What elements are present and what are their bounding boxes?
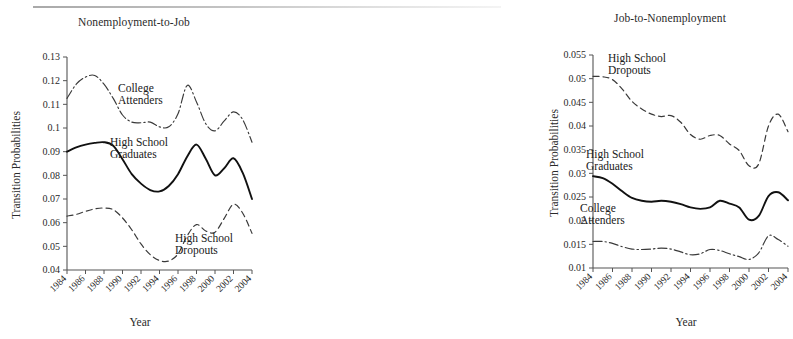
x-tick-label: 2000 [195,272,216,293]
x-tick-label: 1986 [593,270,614,291]
x-tick-label: 1984 [573,270,594,291]
x-tick-label: 1990 [103,272,124,293]
y-tick-label: 0.04 [569,120,587,131]
panel-job-to-nonemployment: Job-to-Nonemployment Transition Probabil… [536,0,793,339]
y-tick-label: 0.045 [564,97,587,108]
x-tick-label: 1990 [632,270,653,291]
y-tick-label: 0.13 [43,51,61,62]
y-tick-label: 0.08 [43,170,61,181]
x-axis-label-left: Year [100,316,180,328]
x-tick-label: 1998 [710,270,731,291]
annotation-high-school-dropouts-right: High School Dropouts [608,52,666,77]
chart-svg-right: 0.0550.050.0450.040.0350.030.0250.020.01… [536,0,793,312]
x-tick-label: 1996 [158,272,179,293]
x-tick-label: 1992 [121,272,142,293]
y-tick-label: 0.01 [569,262,587,273]
x-tick-label: 1996 [690,270,711,291]
x-tick-label: 1988 [84,272,105,293]
y-tick-label: 0.07 [43,193,61,204]
annotation-high-school-graduates-left: High School Graduates [110,136,168,161]
x-tick-label: 2004 [768,270,789,291]
x-tick-label: 1994 [140,272,161,293]
y-tick-label: 0.11 [43,99,60,110]
annotation-college-attenders-right: College Attenders [580,202,625,227]
plot-area-right: 0.0550.050.0450.040.0350.030.0250.020.01… [536,0,793,312]
y-tick-label: 0.04 [43,264,61,275]
x-tick-label: 1994 [671,270,692,291]
x-tick-label: 1992 [651,270,672,291]
x-tick-label: 1998 [177,272,198,293]
x-tick-label: 2000 [729,270,750,291]
y-tick-label: 0.05 [569,73,587,84]
y-tick-label: 0.1 [48,122,61,133]
x-tick-label: 1988 [612,270,633,291]
y-tick-label: 0.025 [564,191,587,202]
x-axis-label-right: Year [646,316,726,328]
y-tick-label: 0.06 [43,217,61,228]
annotation-college-attenders-left: College Attenders [118,82,163,107]
x-tick-label: 2002 [214,272,235,293]
panel-nonemployment-to-job: Nonemployment-to-Job Transition Probabil… [0,0,268,339]
x-tick-label: 1986 [66,272,87,293]
x-tick-label: 1984 [47,272,68,293]
annotation-high-school-dropouts-left: High School Dropouts [175,232,233,257]
y-tick-label: 0.055 [564,49,587,60]
x-tick-label: 2004 [232,272,253,293]
y-tick-label: 0.03 [569,168,587,179]
y-tick-label: 0.035 [564,144,587,155]
series-line-college-attenders [593,235,788,259]
y-tick-label: 0.05 [43,241,61,252]
y-tick-label: 0.12 [43,75,61,86]
y-tick-label: 0.015 [564,239,587,250]
annotation-high-school-graduates-right: High School Graduates [586,148,644,173]
x-tick-label: 2002 [749,270,770,291]
y-tick-label: 0.09 [43,146,61,157]
